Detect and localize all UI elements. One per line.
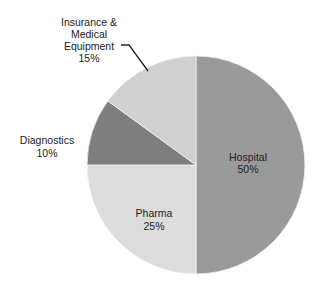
pharma-percent: 25% [143,220,164,232]
pie-slices [87,56,305,274]
diagnostics-percent: 10% [36,147,57,159]
insurance-label-line1: Insurance & [61,16,117,28]
hospital-percent: 50% [237,163,258,175]
insurance-leader-line [121,45,148,71]
diagnostics-label: Diagnostics [20,134,74,146]
insurance-label-line3: Equipment [64,40,114,52]
insurance-percent: 15% [78,52,99,64]
pie-slice-pharma [87,165,196,274]
insurance-label-line2: Medical [71,28,107,40]
pie-chart-svg: Hospital 50% Pharma 25% Diagnostics 10% … [0,0,323,295]
hospital-label: Hospital [229,151,267,163]
pharma-label: Pharma [136,207,173,219]
pie-chart: Hospital 50% Pharma 25% Diagnostics 10% … [0,0,323,295]
